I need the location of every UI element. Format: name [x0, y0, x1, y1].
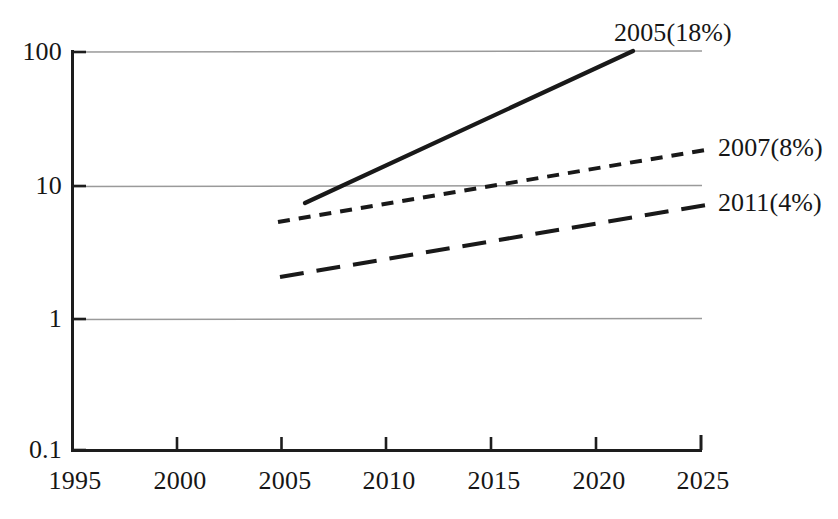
gridline-100	[72, 51, 702, 52]
chart-plot-area	[0, 0, 838, 519]
gridline-10	[72, 186, 702, 187]
x-tick-label-1995: 1995	[49, 466, 102, 496]
x-tick-label-2025: 2025	[677, 466, 730, 496]
x-tick-label-2000: 2000	[154, 466, 207, 496]
series-line-2005	[305, 51, 633, 203]
y-axis-ticks	[72, 52, 86, 450]
x-tick-label-2020: 2020	[573, 466, 626, 496]
y-gridlines	[72, 51, 702, 320]
x-axis-ticks	[73, 435, 702, 450]
gridline-1	[72, 319, 702, 320]
y-tick-label-100: 100	[0, 37, 62, 67]
data-series-group	[278, 51, 711, 277]
y-tick-label-0.1: 0.1	[0, 435, 62, 465]
x-tick-label-2015: 2015	[468, 466, 521, 496]
x-tick-label-2005: 2005	[259, 466, 312, 496]
series-label-2007: 2007(8%)	[718, 133, 823, 163]
chart-container: 100 10 1 0.1 1995 2000 2005 2010 2015 20…	[0, 0, 838, 519]
y-tick-label-1: 1	[0, 304, 62, 334]
caption-remnant	[40, 503, 600, 517]
series-line-2011	[280, 205, 706, 277]
series-label-2011: 2011(4%)	[718, 188, 822, 218]
series-label-2005: 2005(18%)	[614, 18, 732, 48]
y-tick-label-10: 10	[0, 171, 62, 201]
x-tick-label-2010: 2010	[363, 466, 416, 496]
